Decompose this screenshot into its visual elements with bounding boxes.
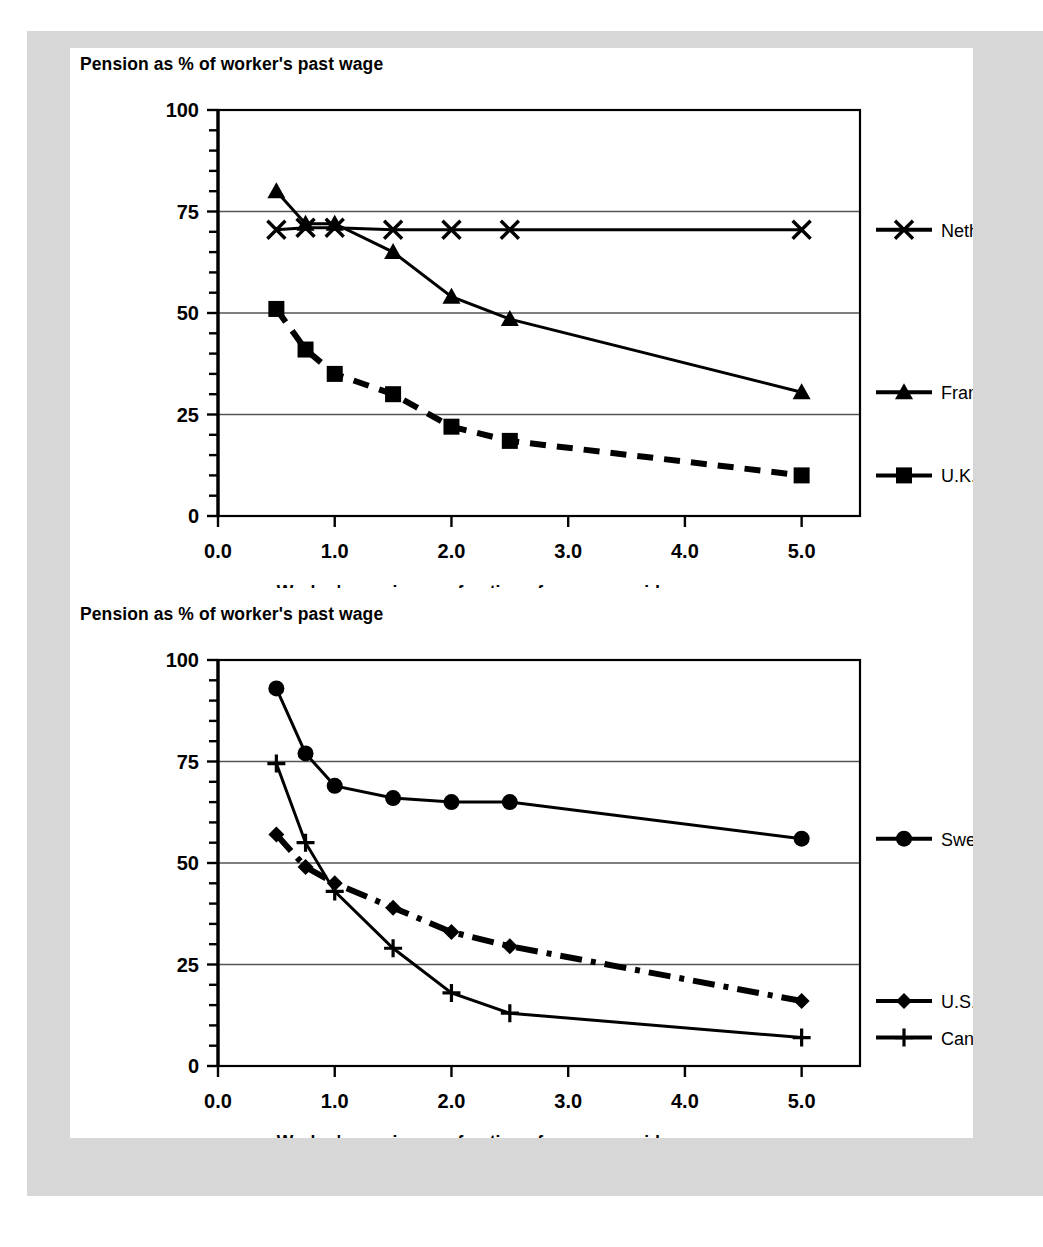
- x-tick-label: 2.0: [438, 540, 466, 562]
- x-axis-ticks: 0.01.02.03.04.05.0: [204, 516, 815, 562]
- data-point: [443, 419, 459, 435]
- data-point: [443, 924, 459, 940]
- data-point: [794, 993, 810, 1009]
- y-tick-labels: 0255075100: [166, 99, 199, 527]
- y-tick-label: 75: [177, 751, 199, 773]
- x-tick-label: 4.0: [671, 540, 699, 562]
- data-point: [794, 831, 810, 847]
- legend-item[interactable]: Canada: [876, 1029, 973, 1049]
- chart-top-title: Pension as % of worker's past wage: [80, 54, 383, 75]
- x-tick-label: 0.0: [204, 540, 232, 562]
- legend-marker: [896, 467, 912, 483]
- data-point: [268, 301, 284, 317]
- legend-label: Netherlands: [941, 221, 973, 241]
- chart-top-canvas: 02550751000.01.02.03.04.05.0Worker's ear…: [70, 48, 973, 588]
- legend-label: Sweden: [941, 830, 973, 850]
- data-point: [443, 794, 459, 810]
- gridlines: [218, 660, 860, 1066]
- x-tick-label: 5.0: [788, 540, 816, 562]
- series-u-k-: [268, 301, 809, 483]
- x-tick-label: 1.0: [321, 540, 349, 562]
- legend-label: France: [941, 383, 973, 403]
- y-tick-labels: 0255075100: [166, 649, 199, 1077]
- data-point: [297, 834, 315, 852]
- x-tick-label: 0.0: [204, 1090, 232, 1112]
- chart-bottom: Pension as % of worker's past wage 02550…: [70, 598, 973, 1138]
- chart-bottom-canvas: 02550751000.01.02.03.04.05.0Worker's ear…: [70, 598, 973, 1138]
- y-tick-label: 0: [188, 505, 199, 527]
- y-tick-label: 50: [177, 302, 199, 324]
- chart-bottom-title: Pension as % of worker's past wage: [80, 604, 383, 625]
- data-point: [298, 342, 314, 358]
- x-tick-label: 2.0: [438, 1090, 466, 1112]
- data-point: [793, 1029, 811, 1047]
- legend-item[interactable]: U.K.: [876, 466, 973, 486]
- x-tick-label: 5.0: [788, 1090, 816, 1112]
- y-tick-label: 0: [188, 1055, 199, 1077]
- x-axis-title-text: Worker's earnings as fraction of economy…: [277, 1132, 790, 1138]
- legend-label: Canada: [941, 1029, 973, 1049]
- data-point: [502, 938, 518, 954]
- series-line: [276, 835, 801, 1001]
- legend-label: U.K.: [941, 466, 973, 486]
- legend: SwedenU.S.A.Canada: [876, 830, 973, 1049]
- series-canada: [267, 755, 810, 1047]
- series-sweden: [268, 680, 809, 846]
- data-point: [327, 778, 343, 794]
- legend-item[interactable]: Sweden: [876, 830, 973, 850]
- data-point: [502, 433, 518, 449]
- data-point: [268, 680, 284, 696]
- legend-item[interactable]: Netherlands: [876, 221, 973, 241]
- series-netherlands: [267, 219, 810, 239]
- data-point: [267, 182, 285, 198]
- y-tick-label: 25: [177, 404, 199, 426]
- series-france: [267, 182, 810, 399]
- legend-marker: [895, 1029, 913, 1047]
- data-point: [385, 900, 401, 916]
- data-point: [384, 243, 402, 259]
- data-point: [298, 745, 314, 761]
- y-axis-ticks: [207, 110, 218, 516]
- data-point: [502, 794, 518, 810]
- legend-item[interactable]: France: [876, 383, 973, 403]
- x-axis-title-text: Worker's earnings as fraction of economy…: [277, 582, 790, 588]
- legend-marker: [896, 993, 912, 1009]
- series-line: [276, 191, 801, 392]
- gridlines: [218, 110, 860, 516]
- y-tick-label: 100: [166, 99, 199, 121]
- x-tick-label: 3.0: [554, 540, 582, 562]
- x-axis-title: Worker's earnings as fraction of economy…: [277, 582, 790, 588]
- legend-marker: [896, 831, 912, 847]
- legend: NetherlandsFranceU.K.: [876, 221, 973, 487]
- x-tick-label: 1.0: [321, 1090, 349, 1112]
- data-point: [385, 790, 401, 806]
- chart-top: Pension as % of worker's past wage 02550…: [70, 48, 973, 588]
- y-tick-label: 50: [177, 852, 199, 874]
- x-tick-label: 3.0: [554, 1090, 582, 1112]
- page-sheet: Pension as % of worker's past wage 02550…: [70, 48, 973, 1138]
- series-line: [276, 688, 801, 838]
- legend-label: U.S.A.: [941, 992, 973, 1012]
- y-tick-label: 75: [177, 201, 199, 223]
- legend-item[interactable]: U.S.A.: [876, 992, 973, 1012]
- data-point: [794, 467, 810, 483]
- x-axis-title: Worker's earnings as fraction of economy…: [277, 1132, 790, 1138]
- data-point: [267, 755, 285, 773]
- data-point: [501, 1004, 519, 1022]
- series-u-s-a-: [268, 827, 809, 1009]
- series-line: [276, 228, 801, 230]
- screenshot-root: Pension as % of worker's past wage 02550…: [0, 0, 1043, 1247]
- y-tick-label: 25: [177, 954, 199, 976]
- series-line: [276, 309, 801, 475]
- x-tick-label: 4.0: [671, 1090, 699, 1112]
- y-axis-ticks: [207, 660, 218, 1066]
- series-group: [267, 182, 810, 483]
- y-tick-label: 100: [166, 649, 199, 671]
- data-point: [385, 386, 401, 402]
- data-point: [327, 366, 343, 382]
- x-axis-ticks: 0.01.02.03.04.05.0: [204, 1066, 815, 1112]
